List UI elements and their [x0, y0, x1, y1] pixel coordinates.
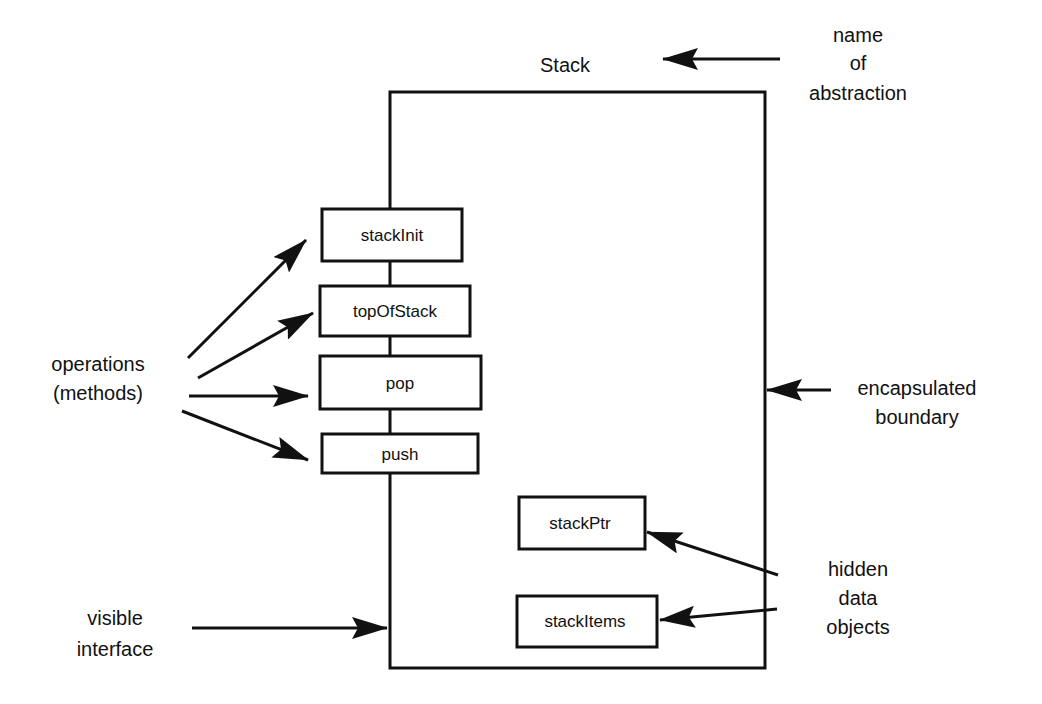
- data-object-stackptr: stackPtr: [519, 497, 645, 549]
- arrow-to-stackitems-icon: [660, 609, 777, 620]
- operation-label: pop: [386, 374, 414, 393]
- annotation-operations: operations (methods): [51, 353, 144, 404]
- abstraction-title: Stack: [540, 54, 591, 76]
- operation-label: push: [382, 445, 419, 464]
- svg-text:of: of: [850, 52, 867, 74]
- svg-text:abstraction: abstraction: [809, 82, 907, 104]
- svg-text:(methods): (methods): [53, 382, 143, 404]
- annotation-name-of-abstraction: name of abstraction: [809, 24, 907, 104]
- operation-label: stackInit: [361, 226, 424, 245]
- svg-text:operations: operations: [51, 353, 144, 375]
- svg-text:interface: interface: [77, 638, 154, 660]
- svg-text:objects: objects: [826, 616, 889, 638]
- operation-pop: pop: [320, 356, 481, 409]
- arrow-to-stackptr-icon: [647, 532, 778, 575]
- annotation-hidden-data-objects: hidden data objects: [826, 558, 889, 638]
- svg-text:visible: visible: [87, 607, 143, 629]
- operation-push: push: [322, 434, 478, 473]
- svg-text:name: name: [833, 24, 883, 46]
- operation-stackinit: stackInit: [322, 209, 462, 261]
- data-object-label: stackPtr: [549, 514, 611, 533]
- data-object-label: stackItems: [544, 612, 625, 631]
- arrow-to-topofstack-icon: [198, 313, 313, 378]
- data-object-stackitems: stackItems: [517, 596, 657, 647]
- arrow-to-stackinit-icon: [188, 240, 306, 358]
- operation-label: topOfStack: [353, 302, 438, 321]
- svg-text:hidden: hidden: [828, 558, 888, 580]
- svg-text:encapsulated: encapsulated: [858, 377, 977, 399]
- annotation-encapsulated-boundary: encapsulated boundary: [858, 377, 977, 428]
- arrow-to-push-icon: [182, 411, 308, 460]
- annotation-visible-interface: visible interface: [77, 607, 154, 660]
- svg-text:data: data: [839, 587, 879, 609]
- stack-abstraction-diagram: Stack stackInit topOfStack pop push stac…: [0, 0, 1042, 704]
- operation-topofstack: topOfStack: [320, 286, 470, 336]
- svg-text:boundary: boundary: [875, 406, 958, 428]
